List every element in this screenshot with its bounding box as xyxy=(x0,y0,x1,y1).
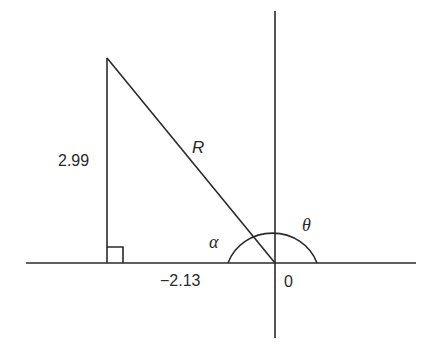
label-vertical-side: 2.99 xyxy=(58,152,89,169)
hypotenuse-r xyxy=(107,58,275,263)
label-alpha: α xyxy=(209,232,219,252)
angle-arc xyxy=(228,233,317,263)
label-theta: θ xyxy=(302,215,311,235)
diagram-canvas: 2.99 R −2.13 0 α θ xyxy=(0,0,430,355)
label-horizontal-value: −2.13 xyxy=(160,272,201,289)
right-angle-marker xyxy=(107,247,123,263)
label-hypotenuse: R xyxy=(192,138,204,157)
label-origin: 0 xyxy=(284,273,293,290)
